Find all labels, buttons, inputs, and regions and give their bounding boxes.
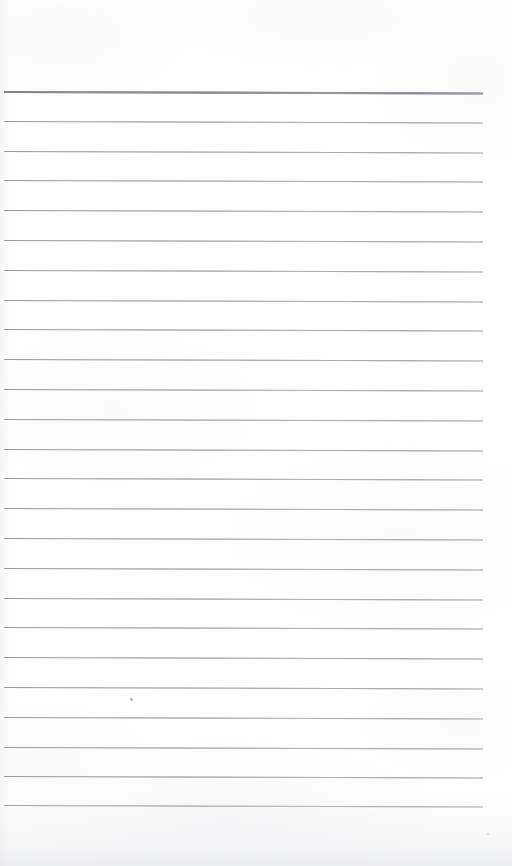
rule-ink [4,300,483,303]
rule-ink [4,240,483,243]
rule-line [4,449,483,452]
rule-ink [4,805,483,808]
rule-ink [4,657,483,660]
rule-line [4,687,483,690]
rule-ink [4,91,483,95]
rule-ink [4,210,483,213]
rule-line [4,180,483,183]
ruled-lines-layer [0,0,512,866]
rule-ink [4,359,483,362]
rule-line [4,568,483,571]
rule-line [4,657,483,660]
rule-ink [4,568,483,571]
rule-line [4,776,483,779]
rule-ink [4,419,483,422]
rule-line [4,478,483,481]
rule-line [4,329,483,332]
rule-ink [4,329,483,332]
rule-ink [4,687,483,690]
rule-ink [4,598,483,601]
rule-line [4,419,483,422]
rule-line [4,508,483,511]
rule-line [4,717,483,720]
rule-line [4,747,483,750]
rule-ink [4,270,483,273]
rule-line [4,627,483,630]
rule-ink [4,508,483,511]
rule-ink [4,180,483,183]
rule-line [4,240,483,243]
rule-line [4,210,483,213]
rule-ink [4,538,483,541]
rule-line [4,270,483,273]
rule-ink [4,478,483,481]
rule-line [4,805,483,808]
rule-ink [4,449,483,452]
rule-ink [4,627,483,630]
rule-ink [4,717,483,720]
rule-ink [4,121,483,124]
header-rule-line [4,91,483,95]
rule-line [4,389,483,392]
rule-line [4,121,483,124]
rule-ink [4,151,483,154]
rule-line [4,300,483,303]
rule-line [4,538,483,541]
rule-ink [4,389,483,392]
rule-line [4,359,483,362]
scanned-page [0,0,512,866]
rule-ink [4,747,483,750]
rule-ink [4,776,483,779]
rule-line [4,598,483,601]
rule-line [4,151,483,154]
